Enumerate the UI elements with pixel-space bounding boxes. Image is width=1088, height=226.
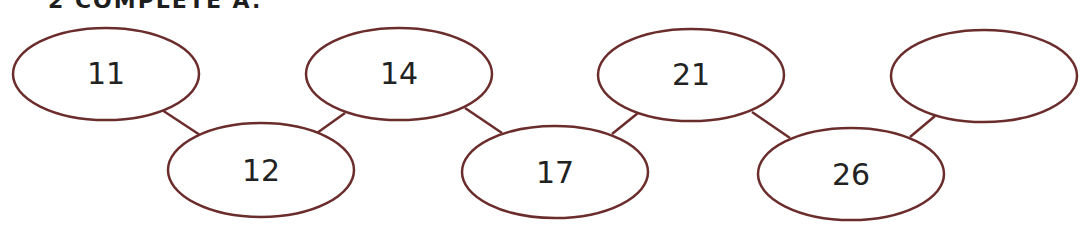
node-label-5: 21 bbox=[597, 57, 785, 92]
connector-6 bbox=[910, 116, 935, 137]
connector-5 bbox=[752, 112, 790, 138]
node-label-3: 14 bbox=[305, 56, 493, 91]
node-label-2: 12 bbox=[167, 153, 355, 188]
connector-1 bbox=[162, 110, 200, 135]
node-label-6: 26 bbox=[757, 157, 945, 192]
connector-4 bbox=[612, 113, 638, 134]
number-sequence-diagram bbox=[0, 0, 1088, 226]
connector-2 bbox=[317, 113, 345, 133]
blank-answer-ellipse[interactable] bbox=[891, 30, 1077, 122]
node-label-1: 11 bbox=[12, 56, 200, 91]
node-label-4: 17 bbox=[461, 155, 649, 190]
connector-3 bbox=[465, 108, 502, 133]
